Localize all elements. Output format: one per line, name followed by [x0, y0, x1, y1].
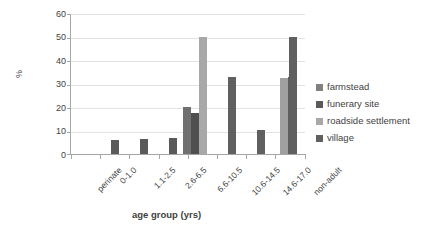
y-tick-label-10: 10: [36, 127, 66, 136]
legend-swatch-farmstead: [316, 84, 323, 91]
x-tick-label-non-adult: non-adult: [311, 165, 343, 197]
legend-label-roadside-settlement: roadside settlement: [327, 116, 410, 126]
legend-swatch-funerary-site: [316, 101, 323, 108]
legend-label-farmstead: farmstead: [327, 82, 369, 92]
x-tick-0: [71, 154, 72, 159]
legend-label-village: village: [327, 133, 354, 143]
y-tick-label-40: 40: [36, 57, 66, 66]
bar-cluster-non-adult: [289, 14, 318, 154]
bar-cluster-perinate: [71, 14, 100, 154]
bar-funerary-site: [140, 139, 148, 154]
x-tick-label-1.1-2.5: 1.1-2.5: [152, 165, 178, 191]
x-axis-title: age group (yrs): [132, 209, 201, 220]
y-tick-label-50: 50: [36, 33, 66, 42]
x-tick-3: [159, 154, 160, 159]
bar-chart: 60 50 40 30 20 10 0 %: [0, 0, 441, 234]
y-tick-label-30: 30: [36, 80, 66, 89]
legend-swatch-village: [316, 135, 323, 142]
y-tick-label-20: 20: [36, 104, 66, 113]
bar-village-secondary: [191, 113, 199, 154]
y-tick-label-60: 60: [36, 10, 66, 19]
bar-roadside-settlement: [280, 78, 288, 154]
x-tick-4: [188, 154, 189, 159]
bar-cluster-0-1.0: [100, 14, 129, 154]
plot-area: [70, 14, 305, 155]
y-tick-label-0: 0: [36, 151, 66, 160]
bar-cluster-1.1-2.5: [129, 14, 158, 154]
bar-village: [289, 37, 297, 154]
x-tick-label-14.6-17.0: 14.6-17.0: [281, 165, 313, 197]
bar-village: [257, 130, 265, 155]
x-tick-label-6.6-10.5: 6.6-10.5: [215, 165, 244, 194]
bar-cluster-2.6-6.5-b: [183, 14, 212, 154]
bar-roadside-settlement: [199, 37, 207, 154]
x-tick-8: [305, 154, 306, 159]
chart-legend: farmstead funerary site roadside settlem…: [316, 82, 410, 143]
legend-swatch-roadside-settlement: [316, 118, 323, 125]
bar-funerary-site: [111, 140, 119, 154]
legend-item-farmstead: farmstead: [316, 82, 410, 92]
legend-item-funerary-site: funerary site: [316, 99, 410, 109]
bar-cluster-6.6-10.5: [217, 14, 246, 154]
legend-item-roadside-settlement: roadside settlement: [316, 116, 410, 126]
x-tick-7: [275, 154, 276, 159]
y-axis-title: %: [14, 70, 24, 78]
x-tick-label-2.6-6.5: 2.6-6.5: [183, 165, 209, 191]
legend-label-funerary-site: funerary site: [327, 99, 379, 109]
x-tick-5: [217, 154, 218, 159]
bar-funerary-site: [169, 138, 177, 154]
x-tick-6: [246, 154, 247, 159]
legend-item-village: village: [316, 133, 410, 143]
x-tick-1: [100, 154, 101, 159]
bar-village: [183, 107, 191, 154]
x-tick-2: [129, 154, 130, 159]
bar-village: [228, 77, 236, 154]
x-tick-label-10.6-14.5: 10.6-14.5: [250, 165, 282, 197]
